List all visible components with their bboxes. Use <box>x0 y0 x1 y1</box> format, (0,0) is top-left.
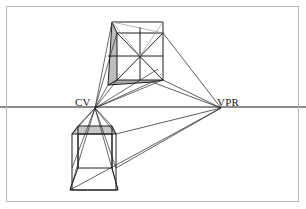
plan-cube-top-face-shading <box>72 126 116 134</box>
cv-label: CV <box>75 96 91 108</box>
perspective-diagram-figure: CV VPR <box>0 0 306 209</box>
vpr-label: VPR <box>217 96 239 108</box>
canvas-background <box>0 0 306 209</box>
diagram-canvas: CV VPR <box>0 0 306 209</box>
